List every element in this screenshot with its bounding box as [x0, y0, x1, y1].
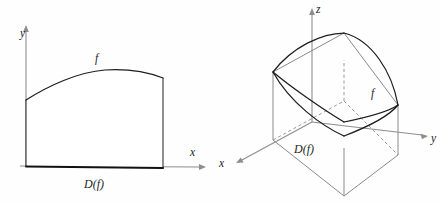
panel-3d-graph: z y x f D(f)	[0, 0, 441, 203]
surface-arc-front-right-3d	[344, 105, 398, 122]
function-label-3d: f	[371, 87, 376, 100]
y-axis-line-3d	[312, 122, 422, 135]
prism-rim-back-left-3d	[273, 33, 344, 72]
hidden-edge-back-left-3d	[273, 101, 344, 140]
surface-arc-front-left-3d	[273, 72, 344, 122]
math-figure-root: y x f D(f)	[0, 0, 441, 203]
z-axis-arrowhead-3d	[309, 8, 315, 15]
surface-valley-left-3d	[273, 72, 344, 136]
prism-upper-rim-3d	[273, 33, 398, 105]
y-axis-label-3d: y	[430, 132, 437, 145]
domain-label-3d: D(f)	[293, 142, 314, 156]
z-axis-label-3d: z	[315, 3, 321, 15]
prism-bottom-face-3d	[273, 140, 398, 196]
x-axis-label-3d: x	[218, 157, 225, 169]
surface-3d	[273, 33, 398, 136]
prism-bottom-front-edges-3d	[273, 140, 398, 196]
prism-vertical-edges-3d	[273, 72, 398, 196]
y-axis-arrowhead-3d	[421, 134, 428, 140]
z-axis-3d	[309, 8, 315, 122]
hidden-edges-3d	[273, 60, 398, 155]
